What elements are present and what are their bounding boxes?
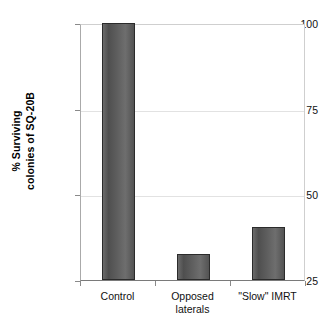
x-tick-mark [80,281,81,286]
x-tick-label: "Slow" IMRT [230,290,305,303]
x-tick-label-line: laterals [155,303,230,316]
x-tick-mark [230,281,231,286]
x-tick-mark [305,281,306,286]
y-axis-title-line-1: % Surviving [9,91,23,189]
bar [102,23,135,280]
bar [177,254,210,280]
bar [252,227,285,280]
x-tick-label-line: Opposed [155,290,230,303]
x-tick-label-line: "Slow" IMRT [230,290,305,303]
x-tick-label-line: Control [80,290,155,303]
x-tick-mark [155,281,156,286]
bar-chart-figure: % Surviving colonies of SQ-20B 255075100… [0,0,323,334]
y-axis-title-line-2: colonies of SQ-20B [23,91,37,189]
x-tick-label: Opposedlaterals [155,290,230,315]
y-axis-title: % Surviving colonies of SQ-20B [0,0,46,281]
plot-area [80,24,305,281]
x-tick-label: Control [80,290,155,303]
